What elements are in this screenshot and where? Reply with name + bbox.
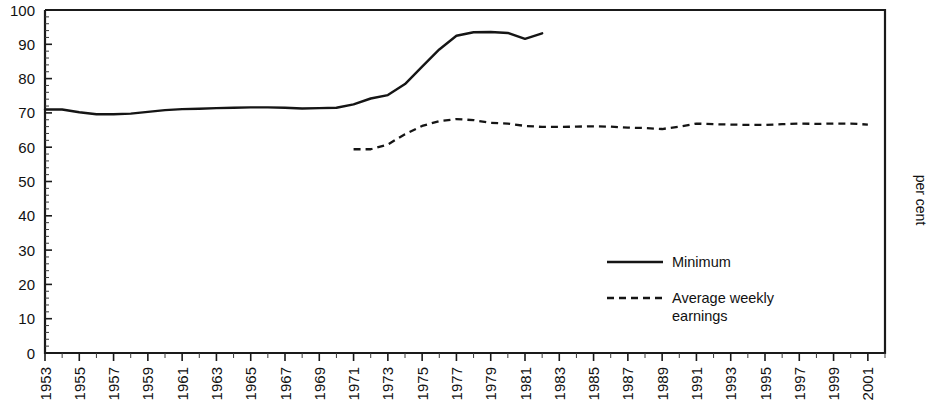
x-tick-label: 1975 bbox=[414, 367, 431, 400]
x-tick-label: 1967 bbox=[277, 367, 294, 400]
x-tick-label: 1993 bbox=[722, 367, 739, 400]
x-tick-label: 1979 bbox=[482, 367, 499, 400]
y-tick-label: 0 bbox=[27, 345, 35, 362]
y-axis-title-text: per cent bbox=[913, 175, 929, 226]
series-line-average-weekly-earnings bbox=[354, 119, 868, 149]
y-tick-label: 50 bbox=[18, 173, 35, 190]
x-tick-label: 1973 bbox=[379, 367, 396, 400]
chart-container: 0102030405060708090100 19531955195719591… bbox=[0, 0, 937, 411]
x-tick-label: 1959 bbox=[139, 367, 156, 400]
x-tick-label: 1995 bbox=[757, 367, 774, 400]
x-tick-label: 1987 bbox=[619, 367, 636, 400]
x-tick-label: 2001 bbox=[859, 367, 876, 400]
x-tick-label: 1957 bbox=[105, 367, 122, 400]
y-tick-label: 100 bbox=[10, 2, 35, 19]
x-tick-label: 1989 bbox=[654, 367, 671, 400]
series-line-minimum bbox=[45, 32, 542, 114]
x-axis: 1953195519571959196119631965196719691971… bbox=[37, 353, 886, 400]
legend-label-average-weekly-earnings-line1: Average weekly bbox=[672, 290, 775, 306]
x-tick-label: 1977 bbox=[448, 367, 465, 400]
chart-legend: Minimum Average weekly earnings bbox=[607, 254, 775, 324]
y-tick-label: 60 bbox=[18, 139, 35, 156]
data-series-group bbox=[45, 32, 868, 149]
x-tick-label: 1955 bbox=[71, 367, 88, 400]
line-chart: 0102030405060708090100 19531955195719591… bbox=[0, 0, 937, 411]
x-tick-label: 1963 bbox=[208, 367, 225, 400]
x-tick-label: 1969 bbox=[311, 367, 328, 400]
x-tick-label: 1981 bbox=[517, 367, 534, 400]
x-tick-label: 1985 bbox=[585, 367, 602, 400]
legend-label-average-weekly-earnings-line2: earnings bbox=[672, 308, 728, 324]
y-tick-label: 30 bbox=[18, 242, 35, 259]
x-tick-label: 1971 bbox=[345, 367, 362, 400]
y-tick-label: 40 bbox=[18, 207, 35, 224]
x-tick-label: 1997 bbox=[791, 367, 808, 400]
y-tick-label: 20 bbox=[18, 276, 35, 293]
y-tick-label: 10 bbox=[18, 310, 35, 327]
y-tick-label: 90 bbox=[18, 36, 35, 53]
y-tick-label: 80 bbox=[18, 70, 35, 87]
x-tick-label: 1965 bbox=[242, 367, 259, 400]
y-axis-title-right: per cent bbox=[913, 175, 929, 226]
legend-label-minimum: Minimum bbox=[672, 254, 731, 270]
x-tick-label: 1961 bbox=[174, 367, 191, 400]
x-tick-label: 1983 bbox=[551, 367, 568, 400]
x-tick-label: 1991 bbox=[688, 367, 705, 400]
x-tick-label: 1953 bbox=[37, 367, 54, 400]
x-tick-label: 1999 bbox=[825, 367, 842, 400]
y-tick-label: 70 bbox=[18, 104, 35, 121]
